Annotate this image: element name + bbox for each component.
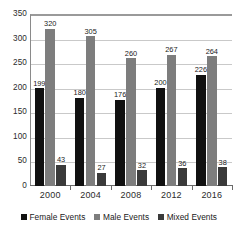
bar[interactable] — [97, 173, 107, 186]
legend-item[interactable]: Female Events — [21, 213, 86, 222]
legend-label: Female Events — [29, 213, 85, 222]
y-tick-label: 200 — [13, 84, 27, 92]
x-tick-label: 2004 — [80, 190, 101, 200]
chart-legend: Female EventsMale EventsMixed Events — [0, 210, 238, 224]
x-tick-mark — [192, 186, 193, 190]
x-tick-mark — [232, 186, 233, 190]
plot-wrapper: 050100150200250300350 199320431803052717… — [0, 0, 238, 196]
bar[interactable] — [56, 165, 66, 186]
bar[interactable] — [207, 56, 217, 186]
x-tick-label: 2000 — [40, 190, 61, 200]
bar-value-label: 176 — [114, 91, 126, 98]
x-tick-mark — [111, 186, 112, 190]
y-tick-label: 50 — [18, 157, 27, 165]
bar[interactable] — [45, 29, 55, 186]
bar-value-label: 27 — [97, 164, 105, 171]
bar[interactable] — [178, 168, 188, 186]
y-tick-label: 250 — [13, 59, 27, 67]
legend-item[interactable]: Mixed Events — [158, 213, 217, 222]
y-tick-label: 0 — [22, 182, 27, 190]
legend-swatch-icon — [158, 214, 164, 220]
bar[interactable] — [35, 88, 45, 186]
bar[interactable] — [167, 55, 177, 186]
bar-chart: 050100150200250300350 199320431803052717… — [0, 0, 238, 229]
bar-value-label: 36 — [178, 160, 186, 167]
bars-layer: 1993204318030527176260322002673622626438 — [30, 14, 232, 186]
x-tick-label: 2012 — [161, 190, 182, 200]
bar[interactable] — [75, 98, 85, 186]
bar-value-label: 320 — [44, 20, 56, 27]
y-axis: 050100150200250300350 — [0, 0, 29, 196]
bar-value-label: 260 — [125, 50, 137, 57]
x-tick-label: 2008 — [121, 190, 142, 200]
y-tick-label: 300 — [13, 34, 27, 42]
legend-label: Mixed Events — [167, 213, 217, 222]
legend-label: Male Events — [103, 213, 149, 222]
bar-value-label: 38 — [219, 159, 227, 166]
legend-item[interactable]: Male Events — [94, 213, 149, 222]
bar[interactable] — [115, 100, 125, 186]
bar-value-label: 226 — [195, 66, 207, 73]
bar-value-label: 200 — [154, 79, 166, 86]
bar-value-label: 43 — [57, 156, 65, 163]
y-tick-label: 150 — [13, 108, 27, 116]
legend-swatch-icon — [94, 214, 100, 220]
bar[interactable] — [86, 36, 96, 186]
x-axis: 20002004200820122016 — [0, 190, 238, 204]
bar[interactable] — [156, 88, 166, 186]
bar[interactable] — [196, 75, 206, 186]
bar-value-label: 267 — [165, 46, 177, 53]
bar-value-label: 32 — [138, 162, 146, 169]
bar[interactable] — [137, 170, 147, 186]
bar-value-label: 264 — [206, 48, 218, 55]
x-tick-mark — [70, 186, 71, 190]
bar[interactable] — [126, 58, 136, 186]
bar-value-label: 305 — [84, 28, 96, 35]
y-tick-label: 100 — [13, 133, 27, 141]
x-tick-mark — [151, 186, 152, 190]
legend-swatch-icon — [21, 214, 27, 220]
y-tick-label: 350 — [13, 10, 27, 18]
bar-value-label: 199 — [33, 80, 45, 87]
x-tick-label: 2016 — [201, 190, 222, 200]
bar-value-label: 180 — [74, 89, 86, 96]
bar[interactable] — [218, 167, 228, 186]
